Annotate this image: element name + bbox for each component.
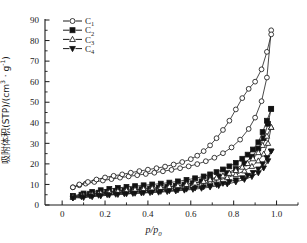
data-point-open-circle [171,162,176,167]
y-tick-label: 60 [30,77,40,87]
data-point-filled-square [221,167,226,172]
data-point-filled-square [240,156,245,161]
data-point-open-circle [94,177,99,182]
data-point-open-circle [265,49,270,54]
y-tick-label: 10 [30,180,40,190]
data-point-filled-square [233,160,238,165]
data-point-open-circle [269,32,274,37]
data-point-open-circle [188,157,193,162]
data-point-open-circle [70,19,75,24]
legend-label-sub: 4 [91,48,95,55]
y-tick-label: 70 [30,56,40,66]
data-point-filled-square [256,140,261,145]
data-point-open-circle [227,118,232,123]
y-tick-label: 40 [30,118,40,128]
data-point-open-circle [103,175,108,180]
data-point-open-circle [163,164,168,169]
y-tick-label: 20 [30,159,40,169]
x-tick-label: 0 [60,209,65,219]
legend-label-sub: 3 [91,39,94,46]
x-tick-label: 0.4 [142,209,154,219]
data-point-open-circle [201,149,206,154]
data-point-filled-square [269,106,274,111]
data-point-open-circle [253,79,258,84]
data-point-open-circle [85,180,90,185]
data-point-filled-square [251,147,256,152]
data-point-open-circle [77,182,82,187]
data-point-open-circle [229,145,234,150]
data-point-open-circle [195,153,200,158]
data-point-open-circle [233,107,238,112]
legend-label-sub: 2 [91,30,94,37]
data-point-open-circle [203,159,208,164]
data-point-open-circle [246,127,251,132]
data-point-open-triangle-up [70,36,76,41]
data-point-open-circle [221,128,226,133]
data-point-open-circle [70,185,75,190]
data-point-filled-triangle-down [70,46,76,51]
data-point-filled-square [214,170,219,175]
data-point-filled-square [70,28,75,33]
data-point-open-circle [154,166,159,171]
plot-canvas: 010203040506070809000.20.40.60.81.0 C1C2… [0,0,307,243]
data-point-open-triangle-up [265,140,271,145]
data-point-filled-square [245,152,250,157]
data-point-filled-square [260,130,265,135]
data-point-open-circle [161,169,166,174]
data-point-open-circle [120,172,125,177]
x-tick-label: 1.0 [271,209,283,219]
legend-item-C4: C4 [63,44,95,55]
legend-label-sub: 1 [91,20,94,27]
y-tick-label: 30 [30,139,40,149]
data-point-open-circle [208,143,213,148]
data-point-open-circle [214,136,219,141]
data-point-open-circle [212,155,217,160]
data-point-open-circle [128,170,133,175]
data-point-open-circle [221,151,226,156]
data-point-open-circle [152,170,157,175]
x-tick-label: 0.6 [185,209,197,219]
data-point-open-circle [246,86,251,91]
y-tick-label: 0 [35,200,40,210]
x-tick-label: 0.8 [228,209,240,219]
data-series [70,28,274,201]
data-point-open-circle [180,160,185,165]
data-point-open-circle [146,167,151,172]
y-tick-label: 80 [30,36,40,46]
axes [45,19,298,205]
data-point-open-circle [186,164,191,169]
data-point-open-circle [238,137,243,142]
y-tick-label: 90 [30,15,40,25]
data-point-filled-square [227,164,232,169]
data-point-open-circle [259,99,264,104]
chart-figure: 吸附体积(STP)/(cm3 · g-1) p/p0 0102030405060… [0,0,307,243]
data-point-open-circle [178,166,183,171]
y-tick-label: 50 [30,97,40,107]
x-tick-label: 0.2 [99,209,110,219]
data-point-open-circle [240,96,245,101]
data-point-open-circle [137,169,142,174]
data-point-open-circle [195,162,200,167]
data-point-open-circle [111,173,116,178]
chart-legend: C1C2C3C4 [63,16,95,55]
data-point-filled-square [265,118,270,123]
data-point-open-circle [259,67,264,72]
series-C2-desorption [70,106,273,198]
data-point-filled-triangle-down [268,149,274,154]
data-point-open-circle [265,75,270,80]
data-point-open-circle [253,115,258,120]
data-point-open-circle [169,167,174,172]
